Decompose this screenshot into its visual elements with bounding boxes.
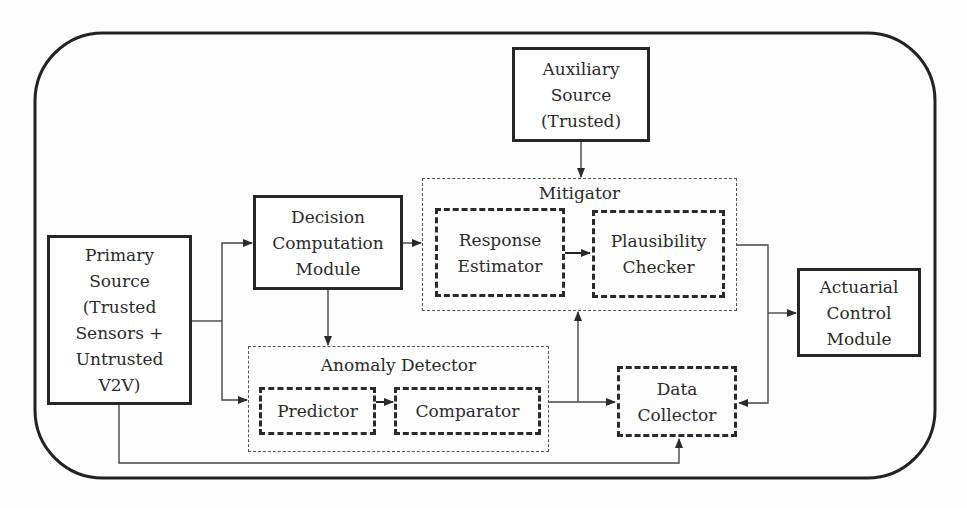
actuarial-control-module-node: Actuarial Control Module bbox=[797, 268, 921, 357]
primary-source-label: Primary Source (Trusted Sensors + Untrus… bbox=[75, 242, 163, 398]
plausibility-checker-label: Plausibility Checker bbox=[611, 228, 707, 280]
predictor-label: Predictor bbox=[277, 398, 358, 424]
predictor-node: Predictor bbox=[259, 387, 376, 435]
edge-primary-to-decision bbox=[222, 243, 252, 321]
response-estimator-label: Response Estimator bbox=[458, 227, 543, 279]
data-collector-label: Data Collector bbox=[638, 376, 717, 428]
system-diagram: Primary Source (Trusted Sensors + Untrus… bbox=[0, 0, 967, 508]
data-collector-node: Data Collector bbox=[617, 366, 737, 437]
mitigator-title: Mitigator bbox=[423, 180, 736, 206]
edge-primary-to-anomaly bbox=[222, 321, 247, 400]
auxiliary-source-label: Auxiliary Source (Trusted) bbox=[541, 56, 621, 134]
auxiliary-source-node: Auxiliary Source (Trusted) bbox=[512, 47, 650, 142]
decision-module-label: Decision Computation Module bbox=[272, 204, 384, 282]
response-estimator-node: Response Estimator bbox=[435, 208, 565, 297]
edge-mitigator-out bbox=[737, 245, 768, 313]
edge-mitigator-to-datacollector bbox=[739, 313, 768, 403]
primary-source-node: Primary Source (Trusted Sensors + Untrus… bbox=[47, 235, 192, 405]
comparator-label: Comparator bbox=[416, 398, 520, 424]
comparator-node: Comparator bbox=[394, 387, 541, 435]
plausibility-checker-node: Plausibility Checker bbox=[592, 210, 725, 298]
actuarial-module-label: Actuarial Control Module bbox=[820, 274, 899, 352]
decision-computation-module-node: Decision Computation Module bbox=[253, 195, 403, 290]
anomaly-detector-title: Anomaly Detector bbox=[249, 352, 548, 378]
